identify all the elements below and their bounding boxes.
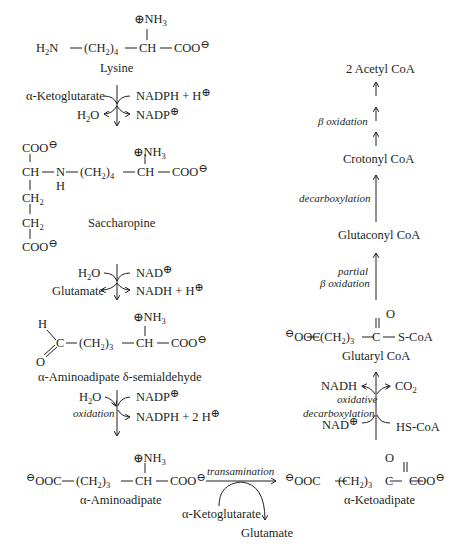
ketoadipate-o: O [385, 452, 394, 465]
step4-hscoa: HS-CoA [396, 421, 440, 434]
step1-nadph: NADPH + H⊕ [136, 90, 211, 103]
sacch-ch2-a: CH2 [22, 192, 44, 205]
step3-nadph: NADPH + 2 H⊕ [136, 411, 220, 424]
acetyl-coa-label: 2 Acetyl CoA [346, 63, 415, 76]
sacch-nh3: ⊕NH3 [133, 146, 166, 159]
lysine-ch: CH [139, 42, 156, 55]
glutaryl-o: O [386, 308, 395, 321]
sacch-coo-right: COO⊖ [172, 166, 208, 179]
sacch-nh: H [56, 180, 65, 193]
ketoadipate-ooc: ⊖OOC [285, 475, 321, 488]
sacch-n: N [56, 166, 65, 179]
crotonyl-coa-label: Crotonyl CoA [343, 153, 414, 166]
aminoadipate-chain: (CH2)3 [76, 475, 110, 488]
semialdehyde-label: α-Aminoadipate δ-semialdehyde [38, 371, 201, 384]
aminoadipate-ch: CH [135, 475, 152, 488]
step6-label: decarboxylation [299, 193, 370, 204]
lysine-nh3: ⊕NH3 [134, 13, 167, 26]
lysine-chain: (CH2)4 [84, 42, 118, 55]
semi-ch: CH [136, 337, 153, 350]
transamination-label: transamination [207, 466, 274, 477]
step5-label-2: β oxidation [320, 278, 370, 289]
glutaconyl-coa-label: Glutaconyl CoA [338, 229, 420, 242]
semi-h: H [38, 318, 47, 331]
ketoadipate-label: α-Ketoadipate [344, 494, 415, 507]
sacch-coo-bottom: COO⊖ [22, 241, 58, 254]
lysine-coo: COO⊖ [174, 42, 210, 55]
semi-coo: COO⊖ [171, 337, 207, 350]
ketoadipate-c: C [385, 475, 393, 488]
aminoadipate-nh3: ⊕NH3 [133, 452, 166, 465]
transamination-glutamate: Glutamate [241, 527, 293, 540]
lysine-label: Lysine [100, 62, 133, 75]
step2-nad: NAD⊕ [136, 267, 172, 280]
semi-c: C [56, 337, 64, 350]
aminoadipate-label: α-Aminoadipate [80, 494, 162, 507]
glutaryl-chain: (CH2)3 [320, 331, 354, 344]
step7-label: β oxidation [318, 116, 368, 127]
glutaryl-c: C [372, 331, 380, 344]
sacch-ch: CH [22, 166, 39, 179]
step2-h2o: H2O [78, 267, 100, 280]
sacch-ch2: CH [137, 166, 154, 179]
step3-nadp: NADP⊕ [136, 391, 179, 404]
step3-h2o: H2O [79, 391, 101, 404]
ketoadipate-coo: COO⊖ [409, 475, 445, 488]
step4-co2: CO2 [395, 380, 417, 393]
sacch-ch2-b: CH2 [22, 217, 44, 230]
step2-nadh: NADH + H⊕ [136, 285, 204, 298]
glutaryl-scoa: S-CoA [398, 331, 433, 344]
aminoadipate-coo: COO⊖ [170, 475, 206, 488]
lysine-h2n: H2N [36, 42, 58, 55]
step3-oxidation-label: oxidation [73, 408, 115, 419]
sacch-chain: (CH2)4 [80, 166, 114, 179]
semi-nh3: ⊕NH3 [133, 311, 166, 324]
step4-label-1: oxidative [337, 394, 377, 405]
step4-nad: NAD⊕ [322, 419, 358, 432]
step1-h2o: H2O [77, 109, 99, 122]
semi-o: O [36, 356, 45, 369]
step1-alpha-ketoglutarate: α-Ketoglutarate [26, 90, 105, 103]
step1-nadp: NADP⊕ [136, 109, 179, 122]
saccharopine-label: Saccharopine [88, 217, 155, 230]
sacch-coo-top: COO⊖ [22, 142, 58, 155]
glutaryl-ooc: ⊖OOC [285, 331, 321, 344]
glutaryl-coa-label: Glutaryl CoA [342, 350, 410, 363]
step5-label-1: partial [338, 266, 368, 277]
transamination-ketoglutarate: α-Ketoglutarate [182, 508, 261, 521]
step4-nadh: NADH [321, 380, 357, 393]
aminoadipate-ooc: ⊖OOC [26, 475, 62, 488]
ketoadipate-chain: (CH2)3 [338, 475, 372, 488]
semi-chain: (CH2)3 [79, 337, 113, 350]
step2-glutamate: Glutamate [52, 285, 104, 298]
